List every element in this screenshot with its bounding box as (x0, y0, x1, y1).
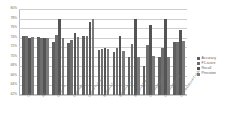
legend-swatch (197, 57, 200, 60)
y-axis: 80%78%76%74%72%70%68%66%64%62% (0, 9, 19, 95)
legend-item-label: Recall (202, 67, 212, 71)
legend-item[interactable]: F1-score (197, 62, 242, 66)
legend-swatch (197, 67, 200, 70)
bar-group (22, 9, 34, 95)
legend-item-label: Precision (202, 72, 216, 76)
chart-legend: AccuracyF1-scoreRecallPrecision (197, 57, 242, 77)
bar-group (52, 9, 64, 95)
x-axis-tick-label: RF (42, 92, 47, 98)
legend-item[interactable]: Precision (197, 72, 242, 76)
legend-swatch (197, 73, 200, 76)
legend-item[interactable]: Recall (197, 67, 242, 71)
bar-group (82, 9, 94, 95)
bar (31, 37, 34, 95)
x-axis-tick-label: LR (27, 93, 32, 98)
bar-group (113, 9, 125, 95)
y-axis-tick-label: 72% (11, 46, 18, 49)
y-axis-tick-label: 68% (11, 65, 18, 68)
bar-chart: 80%78%76%74%72%70%68%66%64%62% LRRFCNN+F… (0, 0, 242, 137)
legend-item-label: F1-score (202, 62, 216, 66)
y-axis-tick-label: 78% (11, 17, 18, 20)
y-axis-tick-label: 76% (11, 26, 18, 29)
y-axis-tick-label: 80% (11, 7, 18, 10)
y-axis-tick-label: 64% (11, 84, 18, 87)
legend-item[interactable]: Accuracy (197, 57, 242, 61)
legend-item-label: Accuracy (202, 57, 216, 61)
legend-swatch (197, 62, 200, 65)
bar-group (67, 9, 79, 95)
y-axis-tick-label: 62% (11, 93, 18, 96)
bar-group (37, 9, 49, 95)
y-axis-tick-label: 66% (11, 74, 18, 77)
bar (46, 38, 49, 95)
y-axis-tick-label: 74% (11, 36, 18, 39)
y-axis-tick-label: 70% (11, 55, 18, 58)
x-axis: LRRFCNN+FTCNN+AdvCNN+FT+AdvBiGRU+FTBiGRU… (19, 96, 187, 137)
